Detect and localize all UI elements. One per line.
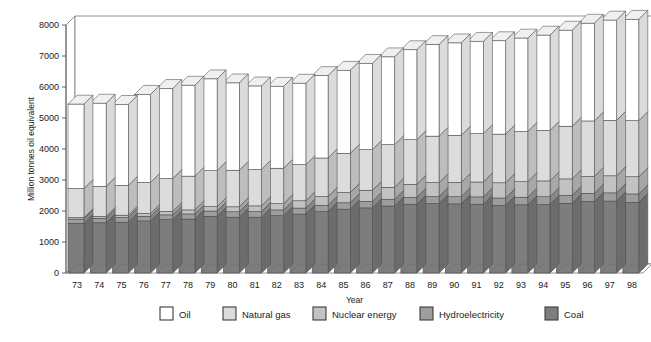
bar-96 (578, 14, 603, 273)
segment-side-oil (395, 48, 404, 145)
segment-side-coal (395, 197, 404, 273)
bar-92 (490, 32, 515, 273)
legend-item-oil[interactable]: Oil (160, 307, 191, 320)
segment-side-oil (417, 41, 426, 140)
x-tick-label: 74 (94, 280, 104, 290)
legend: OilNatural gasNuclear energyHydroelectri… (160, 307, 584, 320)
segment-side-natural-gas (550, 121, 559, 181)
bar-76 (135, 85, 160, 273)
bar-97 (601, 11, 626, 273)
bar-91 (467, 32, 492, 273)
y-axis-title: Million tonnes oil equivalent (26, 96, 36, 201)
segment-side-oil (195, 76, 204, 176)
segment-side-oil (84, 95, 93, 188)
y-tick-label: 5000 (39, 113, 59, 123)
x-tick-label: 95 (560, 280, 570, 290)
segment-side-natural-gas (439, 127, 448, 182)
chart-canvas: 010002000300040005000600070008000 737475… (0, 0, 651, 342)
x-tick-label: 79 (205, 280, 215, 290)
segment-side-natural-gas (461, 126, 470, 182)
bar-79 (201, 70, 226, 273)
segment-side-coal (439, 195, 448, 273)
segment-side-coal (461, 195, 470, 273)
y-axis-title-group: Million tonnes oil equivalent (26, 96, 36, 201)
bar-94 (534, 26, 559, 273)
segment-side-coal (217, 207, 226, 273)
segment-side-coal (350, 200, 359, 273)
segment-side-oil (550, 26, 559, 130)
legend-item-hydroelectricity[interactable]: Hydroelectricity (420, 307, 504, 320)
segment-side-oil (284, 77, 293, 168)
segment-side-coal (306, 205, 315, 273)
x-tick-label: 78 (183, 280, 193, 290)
y-tick-label: 8000 (39, 20, 59, 30)
x-axis-title: Year (346, 295, 363, 305)
legend-label: Oil (179, 309, 191, 320)
y-tick-label: 6000 (39, 82, 59, 92)
bar-80 (223, 74, 248, 273)
segment-front-coal (68, 223, 84, 273)
legend-item-natural-gas[interactable]: Natural gas (223, 307, 291, 320)
bar-95 (556, 21, 581, 273)
bar-75 (112, 96, 137, 273)
segment-side-oil (328, 67, 337, 158)
x-tick-label: 76 (139, 280, 149, 290)
segment-side-natural-gas (528, 122, 537, 181)
segment-side-natural-gas (594, 112, 603, 176)
segment-side-coal (195, 210, 204, 273)
segment-side-oil (350, 61, 359, 153)
segment-side-oil (151, 85, 160, 182)
legend-swatch-nuclear-energy (313, 307, 326, 320)
x-tick-label: 97 (605, 280, 615, 290)
bar-98 (623, 10, 648, 273)
segment-side-natural-gas (506, 125, 515, 183)
legend-item-nuclear-energy[interactable]: Nuclear energy (313, 307, 397, 320)
segment-side-oil (217, 70, 226, 171)
segment-side-coal (528, 196, 537, 273)
x-tick-label: 86 (361, 280, 371, 290)
x-tick-label: 94 (538, 280, 548, 290)
legend-swatch-coal (545, 307, 558, 320)
x-tick-label: 93 (516, 280, 526, 290)
x-axis-title-group: Year (346, 295, 363, 305)
x-tick-label: 73 (72, 280, 82, 290)
segment-side-coal (417, 195, 426, 273)
x-tick-label: 83 (294, 280, 304, 290)
segment-side-coal (173, 211, 182, 273)
segment-side-coal (284, 207, 293, 273)
segment-side-coal (506, 196, 515, 273)
x-tick-label: 88 (405, 280, 415, 290)
bar-77 (157, 80, 182, 273)
bar-87 (379, 48, 404, 273)
y-axis-ticks: 010002000300040005000600070008000 (39, 20, 66, 278)
bar-78 (179, 76, 204, 273)
y-tick-label: 0 (54, 268, 59, 278)
bar-83 (290, 74, 315, 273)
x-tick-label: 75 (116, 280, 126, 290)
segment-side-coal (239, 208, 248, 273)
segment-side-coal (262, 208, 271, 273)
bar-90 (445, 34, 470, 273)
bar-93 (512, 29, 537, 273)
bar-85 (334, 61, 359, 273)
stacked-bar-chart: 010002000300040005000600070008000 737475… (0, 0, 651, 342)
legend-swatch-hydroelectricity (420, 307, 433, 320)
segment-front-hydroelectricity (68, 219, 84, 223)
x-tick-label: 96 (583, 280, 593, 290)
y-tick-label: 3000 (39, 175, 59, 185)
segment-side-oil (639, 10, 648, 120)
segment-side-oil (239, 74, 248, 170)
segment-side-natural-gas (572, 117, 581, 179)
segment-side-oil (106, 94, 115, 186)
x-tick-label: 85 (338, 280, 348, 290)
segment-side-oil (262, 77, 271, 169)
segment-side-oil (572, 21, 581, 126)
x-tick-label: 92 (494, 280, 504, 290)
segment-side-oil (461, 34, 470, 135)
segment-side-oil (594, 14, 603, 121)
segment-side-coal (328, 203, 337, 273)
segment-side-natural-gas (617, 111, 626, 175)
bar-88 (401, 41, 426, 273)
legend-item-coal[interactable]: Coal (545, 307, 584, 320)
x-tick-label: 87 (383, 280, 393, 290)
